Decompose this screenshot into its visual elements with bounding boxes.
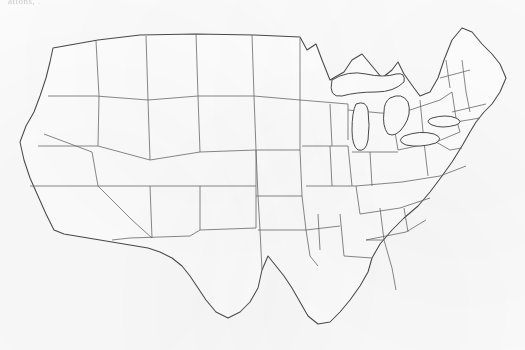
map-svg [0, 0, 525, 350]
national-outline [20, 28, 506, 324]
lake-michigan [352, 103, 369, 150]
region-mid-atlantic-coastal-dot [458, 230, 484, 242]
lake-ontario [428, 116, 460, 127]
us-stipple-map [0, 0, 525, 350]
figure-page: ations, . [0, 0, 525, 350]
